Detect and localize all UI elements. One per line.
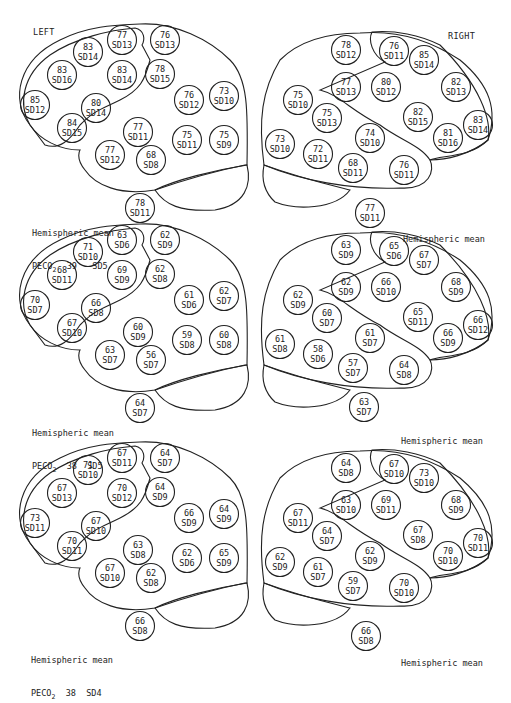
left-region-flow: 75SD11 [173,126,202,155]
region-value: 80 [381,77,391,87]
region-sd: SD11 [308,154,328,164]
region-value: 75 [219,130,229,140]
region-value: 59 [348,576,358,586]
region-value: 70 [443,546,453,556]
region-sd: SD9 [152,492,167,502]
region-value: 72 [313,144,323,154]
right-region-flow: 61SD7 [356,324,385,353]
right-region-flow: 67SD8 [404,521,433,550]
right-region-flow: 70SD10 [434,542,463,571]
region-value: 65 [219,548,229,558]
region-value: 61 [365,328,375,338]
region-sd: SD9 [338,250,353,260]
region-sd: SD11 [394,170,414,180]
left-hemispheric-mean-circle: 78SD11 [126,194,155,223]
region-value: 77 [341,77,351,87]
right-region-flow: 76SD11 [380,37,409,66]
region-value: 67 [293,508,303,518]
region-value: 64 [155,482,165,492]
left-region-flow: 77SD12 [96,141,125,170]
right-region-flow: 75SD10 [284,86,313,115]
right-region-flow: 77SD13 [332,73,361,102]
region-value: 68 [146,150,156,160]
region-value: 66 [473,315,483,325]
panel-2-left-caption: Hemispheric mean PECO2 38 SD5 [32,406,114,498]
region-value: 85 [30,95,40,105]
region-value: 75 [322,108,332,118]
region-sd: SD8 [216,340,231,350]
left-region-flow: 60SD9 [124,318,153,347]
region-value: 57 [348,358,358,368]
right-region-flow: 68SD9 [442,491,471,520]
region-value: 83 [117,65,127,75]
right-region-flow: 83SD14 [464,111,493,140]
peco2-value: 38 [67,461,77,471]
right-region-flow: 64SD8 [390,356,419,385]
right-region-flow: 62SD9 [332,273,361,302]
region-value: 82 [451,77,461,87]
region-sd: SD6 [181,300,196,310]
region-sd: SD7 [345,368,360,378]
panel-1-left-caption: Hemispheric mean PECO2 39 SD5 [32,206,114,298]
right-region-flow: 62SD9 [356,542,385,571]
region-sd: SD15 [62,128,82,138]
region-value: 66 [91,298,101,308]
right-region-flow: 63SD9 [332,236,361,265]
right-hemispheric-mean-circle: 63SD7 [350,393,379,422]
region-value: 83 [473,115,483,125]
region-sd: SD8 [130,550,145,560]
peco2-label: PECO [32,461,52,471]
region-value: 73 [30,513,40,523]
right-cerebellum-outline [263,165,350,207]
region-value: 66 [361,626,371,636]
region-sd: SD8 [143,578,158,588]
region-value: 63 [341,240,351,250]
right-region-flow: 66SD9 [434,324,463,353]
region-value: 67 [389,459,399,469]
region-value: 68 [348,158,358,168]
region-sd: SD6 [114,240,129,250]
region-sd: SD9 [216,514,231,524]
region-sd: SD9 [448,505,463,515]
right-hemispheric-mean-circle: 66SD8 [352,622,381,651]
region-value: 81 [443,128,453,138]
region-sd: SD9 [216,558,231,568]
region-value: 66 [135,616,145,626]
region-sd: SD9 [157,240,172,250]
region-sd: SD11 [112,458,132,468]
left-region-flow: 73SD11 [21,509,50,538]
region-sd: SD11 [130,208,150,218]
region-sd: SD8 [132,626,147,636]
region-sd: SD7 [310,572,325,582]
left-hemispheric-mean-circle: 66SD8 [126,612,155,641]
region-sd: SD6 [179,558,194,568]
region-value: 77 [133,122,143,132]
region-sd: SD11 [128,132,148,142]
region-sd: SD14 [414,60,434,70]
hemispheric-mean-label: Hemispheric mean [32,428,114,439]
right-region-flow: 80SD12 [372,73,401,102]
left-region-flow: 64SD7 [151,444,180,473]
region-sd: SD6 [310,354,325,364]
right-region-flow: 64SD8 [332,454,361,483]
region-sd: SD8 [179,340,194,350]
region-value: 61 [184,290,194,300]
right-region-flow: 62SD9 [284,286,313,315]
region-sd: SD9 [181,518,196,528]
region-sd: SD11 [376,505,396,515]
left-region-flow: 64SD9 [146,478,175,507]
region-value: 64 [322,526,332,536]
region-sd: SD16 [52,75,72,85]
right-region-flow: 85SD14 [410,46,439,75]
region-value: 78 [135,198,145,208]
region-value: 56 [146,350,156,360]
region-sd: SD13 [317,118,337,128]
peco2-sd: SD5 [87,461,102,471]
left-region-flow: 70SD11 [58,532,87,561]
region-value: 80 [91,98,101,108]
region-sd: SD10 [336,505,356,515]
left-region-flow: 77SD11 [124,118,153,147]
peco2-sd: SD4 [86,688,101,698]
hemispheric-mean-label: Hemispheric mean [31,655,113,666]
